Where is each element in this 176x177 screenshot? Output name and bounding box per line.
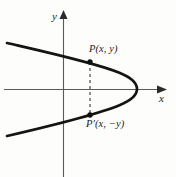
figure-canvas — [0, 0, 176, 177]
y-axis-arrowhead-icon — [60, 10, 68, 19]
x-axis-label: x — [159, 93, 164, 104]
point-marker-P-prime — [87, 112, 92, 117]
y-axis-label: y — [52, 11, 57, 22]
point-marker-P — [87, 59, 92, 64]
parabola-symmetry-figure: y x P(x, y) P′(x, −y) — [0, 0, 176, 177]
point-label-P: P(x, y) — [89, 44, 118, 55]
point-label-P-prime: P′(x, −y) — [86, 119, 124, 130]
